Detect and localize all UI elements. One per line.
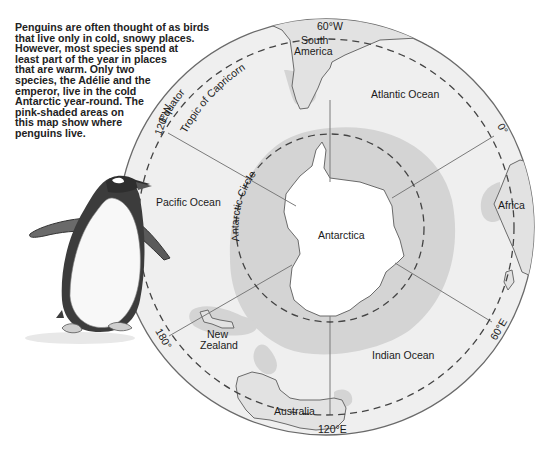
longitude-60w-label: 60°W bbox=[317, 20, 343, 32]
south-america-label-2: America bbox=[294, 45, 333, 57]
africa-label: Africa bbox=[498, 199, 525, 211]
australia-label: Australia bbox=[274, 405, 315, 417]
antarctica-label: Antarctica bbox=[318, 229, 365, 241]
longitude-120e-label: 120°E bbox=[318, 423, 347, 435]
indian-ocean-label: Indian Ocean bbox=[372, 349, 435, 361]
polar-map: Equator Tropic of Capricorn Antarctic Ci… bbox=[0, 0, 547, 458]
pacific-ocean-label: Pacific Ocean bbox=[156, 196, 221, 208]
atlantic-ocean-label: Atlantic Ocean bbox=[371, 88, 439, 100]
new-zealand-label-2: Zealand bbox=[200, 339, 238, 351]
